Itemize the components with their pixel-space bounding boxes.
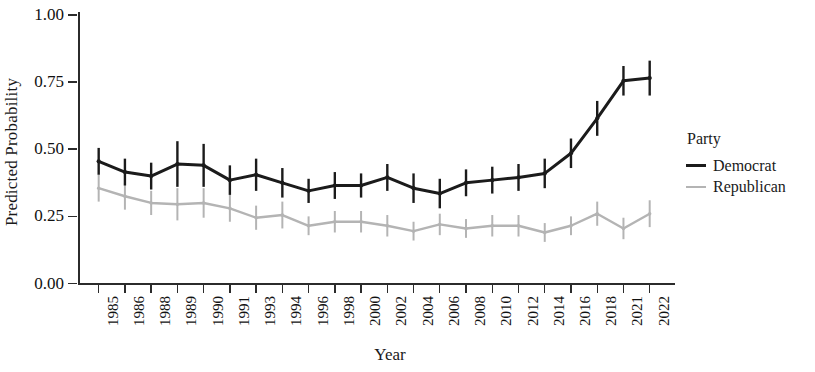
data-point: [438, 191, 442, 195]
y-tick-label: 0.50: [10, 140, 64, 157]
x-tick-label: 1988: [158, 296, 172, 356]
data-point: [123, 195, 126, 198]
x-tick-label: 2014: [552, 296, 566, 356]
data-point: [569, 151, 573, 155]
data-point: [622, 227, 625, 230]
data-point: [333, 220, 336, 223]
data-point: [648, 212, 651, 215]
data-point: [621, 79, 625, 83]
x-tick-mark: [544, 285, 545, 293]
legend-item-democrat: Democrat: [686, 155, 811, 176]
data-point: [490, 178, 494, 182]
x-tick-mark: [98, 285, 99, 293]
y-tick-label: 0.75: [10, 73, 64, 90]
data-point: [123, 170, 127, 174]
x-tick-label: 2010: [499, 296, 513, 356]
x-tick-label: 2012: [526, 296, 540, 356]
x-tick-label: 2018: [604, 296, 618, 356]
x-tick-mark: [623, 285, 624, 293]
x-tick-label: 2008: [473, 296, 487, 356]
x-tick-mark: [229, 285, 230, 293]
data-point: [97, 186, 100, 189]
x-tick-label: 1985: [106, 296, 120, 356]
data-point: [464, 227, 467, 230]
data-point: [569, 224, 572, 227]
data-point: [543, 231, 546, 234]
y-tick-mark: [68, 81, 77, 83]
x-tick-mark: [649, 285, 650, 293]
x-tick-mark: [203, 285, 204, 293]
data-point: [202, 163, 206, 167]
data-point: [491, 224, 494, 227]
x-tick-label: 1991: [237, 296, 251, 356]
data-point: [306, 189, 310, 193]
x-tick-mark: [282, 285, 283, 293]
x-tick-mark: [255, 285, 256, 293]
legend-item-republican: Republican: [686, 176, 811, 197]
y-tick-label: 0.00: [10, 275, 64, 292]
data-point: [596, 212, 599, 215]
x-tick-label: 1986: [132, 296, 146, 356]
data-point: [149, 174, 153, 178]
data-point: [648, 76, 652, 80]
x-tick-label: 2021: [630, 296, 644, 356]
data-point: [595, 116, 599, 120]
data-point: [228, 178, 232, 182]
x-tick-mark: [413, 285, 414, 293]
data-point: [516, 175, 520, 179]
legend-item-label: Republican: [713, 178, 786, 196]
x-tick-label: 1990: [211, 296, 225, 356]
x-tick-label: 1994: [289, 296, 303, 356]
y-tick-label: 1.00: [10, 6, 64, 23]
y-tick-label: 0.25: [10, 207, 64, 224]
x-tick-label: 2016: [578, 296, 592, 356]
x-tick-mark: [334, 285, 335, 293]
data-point: [254, 173, 258, 177]
legend-items: DemocratRepublican: [686, 155, 811, 197]
x-tick-mark: [597, 285, 598, 293]
data-point: [97, 159, 101, 163]
series-democrat: [97, 61, 652, 209]
data-point: [438, 223, 441, 226]
data-point: [359, 183, 363, 187]
data-point: [386, 224, 389, 227]
data-point: [280, 181, 284, 185]
data-point: [543, 171, 547, 175]
x-tick-mark: [360, 285, 361, 293]
data-point: [464, 181, 468, 185]
series-line: [99, 78, 650, 193]
data-point: [307, 224, 310, 227]
legend-title: Party: [686, 130, 811, 148]
x-tick-label: 1993: [263, 296, 277, 356]
data-point: [254, 216, 257, 219]
legend-line-swatch: [686, 186, 706, 188]
data-point: [281, 213, 284, 216]
x-tick-mark: [439, 285, 440, 293]
y-tick-mark: [68, 148, 77, 150]
data-point: [149, 201, 152, 204]
data-point: [333, 183, 337, 187]
data-point: [175, 162, 179, 166]
x-axis-line: [78, 283, 675, 285]
data-point: [385, 175, 389, 179]
y-axis-line: [78, 12, 80, 284]
x-tick-mark: [518, 285, 519, 293]
x-tick-label: 1989: [184, 296, 198, 356]
x-tick-mark: [177, 285, 178, 293]
legend-line-swatch: [686, 164, 706, 167]
x-tick-label: 2022: [657, 296, 671, 356]
x-tick-mark: [465, 285, 466, 293]
x-tick-label: 1996: [316, 296, 330, 356]
x-tick-mark: [387, 285, 388, 293]
y-tick-mark: [68, 216, 77, 218]
data-point: [228, 207, 231, 210]
data-point: [202, 201, 205, 204]
data-point: [517, 224, 520, 227]
data-point: [412, 229, 415, 232]
y-tick-mark: [68, 14, 77, 16]
x-tick-mark: [124, 285, 125, 293]
series-republican: [97, 175, 651, 242]
series-line: [99, 188, 650, 232]
data-point: [176, 203, 179, 206]
x-axis-title: Year: [330, 345, 450, 365]
